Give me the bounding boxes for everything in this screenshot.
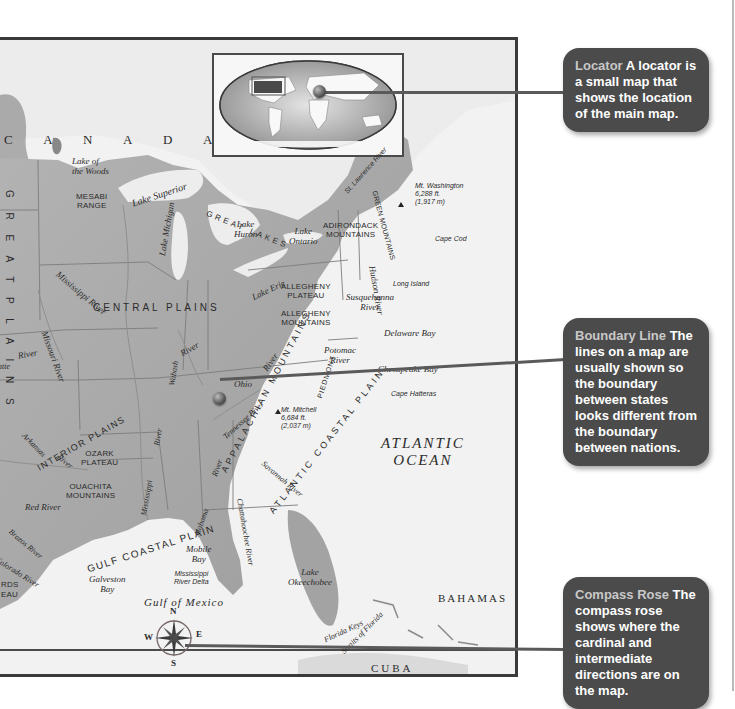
callout-text: The lines on a map are usually shown so … [575,328,697,455]
label-cuba: CUBA [371,663,414,674]
label-gulf-of-mexico: Gulf of Mexico [144,597,224,608]
label-ouachita-mountains: OUACHITA MOUNTAINS [66,483,115,501]
label-edwards-plateau-partial: RDS EAU [1,580,19,599]
label-canada: C A N A D A [4,133,226,146]
label-cape-cod: Cape Cod [435,235,467,242]
label-galveston-bay: Galveston Bay [89,575,126,595]
page-edge-rule [732,0,734,691]
callout-term: Boundary Line [575,328,666,343]
locator-leader-line [321,91,564,94]
compass-s: S [171,659,176,668]
locator-map [212,53,404,157]
label-mobile-bay: Mobile Bay [186,545,212,565]
label-mt-mitchell: Mt. Mitchell 6,684 ft. (2,037 m) [281,406,316,430]
label-mesabi-range: MESABI RANGE [76,193,107,211]
label-adirondack-mountains: ADIRONDACK MOUNTAINS [323,222,378,240]
label-red-river: Red River [25,503,61,512]
peak-marker-icon [275,409,281,414]
label-lake-okeechobee: Lake Okeechobee [288,568,332,588]
label-great-plains: G R E A T P L A I N S [4,190,14,411]
label-ohio: Ohio [234,380,252,389]
label-ozark-plateau: OZARK PLATEAU [81,450,118,468]
label-lake-huron: Lake Huron [234,220,257,240]
label-long-island: Long Island [393,280,429,287]
locator-pin-icon [313,85,326,98]
boundary-pin-icon [213,392,226,405]
label-mississippi-river-delta: Mississippi River Delta [174,570,209,585]
callout-term: Locator [575,58,623,73]
callout-locator: Locator A locator is a small map that sh… [563,48,709,132]
callout-compass-rose: Compass Rose The compass rose shows wher… [563,577,709,709]
label-cape-hatteras: Cape Hatteras [391,390,436,397]
world-globe-locator [214,55,402,155]
callout-boundary-line: Boundary Line The lines on a map are usu… [563,318,709,466]
compass-w: W [144,633,153,642]
compass-n: N [170,607,177,616]
compass-e: E [196,630,202,639]
label-susquehanna-river: Susquehanna River [346,293,394,313]
peak-marker-icon [398,202,404,207]
callout-term: Compass Rose [575,587,669,602]
callout-text: The compass rose shows where the cardina… [575,587,696,698]
compass-rose-icon [154,618,194,658]
label-allegheny-plateau: ALLEGHENY PLATEAU [281,283,331,301]
label-mt-washington: Mt. Washington 6,288 ft. (1,917 m) [415,182,464,206]
label-bahamas: BAHAMAS [438,593,507,604]
label-delaware-bay: Delaware Bay [384,329,435,338]
label-central-plains: CENTRAL PLAINS [93,303,220,313]
main-map: C A N A D A Lake of the Woods MESABI RAN… [0,37,518,677]
label-atlantic-ocean: ATLANTIC OCEAN [381,435,465,470]
label-lake-ontario: Lake Ontario [289,227,318,247]
label-lake-of-the-woods: Lake of the Woods [72,157,109,177]
